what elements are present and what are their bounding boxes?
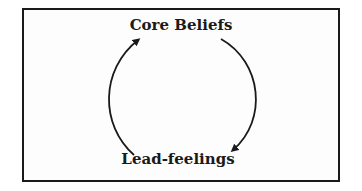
cycle-arrows <box>0 0 362 191</box>
arrow-core-to-lead <box>221 39 256 150</box>
arrow-lead-to-core <box>109 40 138 155</box>
